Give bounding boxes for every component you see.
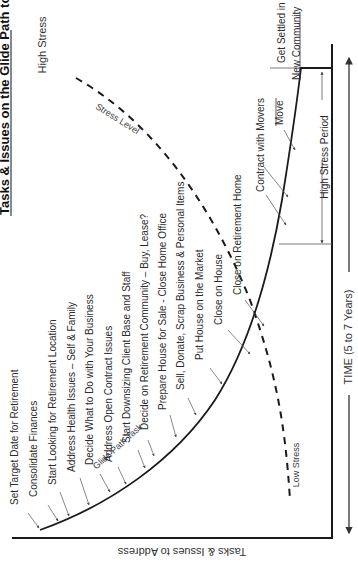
- x-axis-label-group: TIME (5 to 7 Years): [342, 58, 354, 533]
- task-label: Address Open Contract Issues: [103, 326, 114, 462]
- title-text: Tasks & Issues on the Glide Path to Reti…: [0, 0, 12, 215]
- task-label: Decide on Retirement Community – Buy, Le…: [139, 214, 150, 430]
- task-label: Contract with Movers: [255, 98, 266, 192]
- x-axis-label: TIME (5 to 7 Years): [342, 290, 354, 385]
- glide-path-label: Glide Path Task: [91, 421, 145, 471]
- task-label: Set Target Date for Retirement: [9, 369, 20, 505]
- task-label: Put House on the Market: [194, 249, 205, 360]
- y-axis-label: Tasks & Issues to Address: [117, 546, 246, 558]
- diagram-title: Tasks & Issues on the Glide Path to Reti…: [0, 0, 12, 216]
- task-labels: Set Target Date for Retirement Consolida…: [9, 2, 302, 505]
- task-label: Sell, Donate, Scrap Business & Personal …: [175, 182, 186, 390]
- task-label: Start Looking for Retirement Location: [47, 319, 58, 485]
- task-label: Consolidate Finances: [28, 401, 39, 497]
- low-stress-label: Low Stress: [291, 442, 301, 487]
- high-stress-label: High Stress: [36, 16, 48, 73]
- task-label: Prepare House for Sale - Close Home Offi…: [157, 212, 168, 410]
- high-stress-period-label: High Stress Period: [319, 115, 330, 198]
- task-label: Close on House: [213, 253, 224, 325]
- stress-level-label: Stress Level: [94, 101, 141, 136]
- task-label: Start Downsizing Client Base and Staff: [121, 271, 132, 443]
- glide-path-diagram: Tasks & Issues on the Glide Path to Reti…: [0, 0, 358, 570]
- task-label: Address Health Issues – Self & Family: [66, 302, 77, 472]
- task-label: Close on Retirement Home: [232, 174, 243, 295]
- task-label: Get Settled in: [276, 2, 287, 63]
- task-label: Decide What to Do with Your Business: [84, 294, 95, 465]
